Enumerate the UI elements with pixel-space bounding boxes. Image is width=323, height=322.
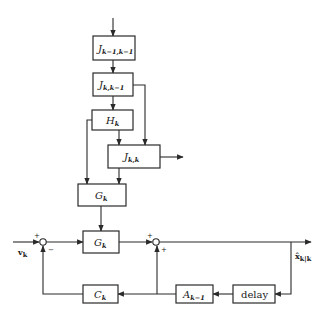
block-h-k: Hk [92, 110, 133, 130]
block-label: G [95, 190, 103, 201]
block-subscript: k−1,k−1 [102, 48, 133, 56]
summing-junction-right [153, 239, 159, 245]
signal-subscript: k|k [300, 255, 312, 263]
wire-j2-to-jkk [133, 85, 145, 145]
block-subscript: k−1 [190, 294, 204, 302]
block-g-k-lower: Gk [83, 231, 119, 253]
block-subscript: k [115, 120, 120, 128]
block-subscript: k [102, 242, 107, 250]
block-label: delay [241, 289, 268, 300]
block-j-k-k: Jk,k [108, 145, 160, 168]
wire-output-to-delay [275, 242, 291, 294]
block-j-k-k-1: Jk,k−1 [93, 73, 133, 96]
block-g-k-upper: Gk [78, 184, 126, 206]
block-label: H [105, 115, 115, 126]
junction-right-plus-sign-top: + [147, 232, 153, 240]
output-signal-label: x̂k|k [295, 251, 312, 263]
block-subscript: k [103, 195, 108, 203]
block-subscript: k,k−1 [103, 84, 124, 92]
wire-h-to-g-upper [87, 120, 92, 184]
block-label: G [94, 237, 102, 248]
input-signal-label: vk [17, 247, 28, 259]
block-subscript: k,k [128, 156, 140, 164]
signal-subscript: k [23, 251, 28, 259]
block-a-k-1: Ak−1 [176, 285, 213, 303]
summing-junction-left [40, 239, 46, 245]
block-diagram: + − + + Jk−1,k−1 Jk,k−1 Hk Jk,k Gk Gk Ck… [0, 0, 323, 322]
junction-right-plus-sign-bottom: + [161, 246, 167, 254]
junction-left-minus-sign: − [48, 246, 54, 254]
block-subscript: k [102, 294, 107, 302]
block-c-k: Ck [83, 285, 118, 303]
block-delay: delay [233, 285, 275, 303]
block-label: A [182, 289, 190, 300]
junction-left-plus-sign: + [34, 232, 40, 240]
block-j-k-1-k-1: Jk−1,k−1 [93, 36, 135, 60]
